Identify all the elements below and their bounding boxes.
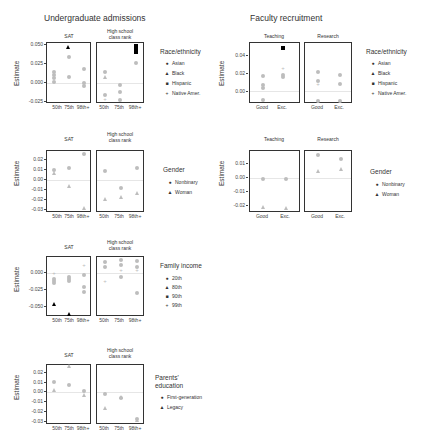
panel-income-sat: + + — [46, 256, 91, 316]
point — [82, 206, 86, 210]
legend-title-race-ug: Race/ethnicity — [160, 48, 201, 56]
point — [118, 90, 122, 94]
point: + — [281, 66, 285, 70]
legend-item: ■Hispanic — [162, 80, 191, 86]
y-tick: 0.000 — [21, 269, 43, 275]
legend-label: Native Amer. — [172, 90, 200, 96]
point — [67, 364, 71, 368]
legend-label: 80th — [172, 284, 182, 290]
y-tick: -0.025 — [21, 286, 43, 292]
legend-item: ▲Woman — [165, 189, 192, 195]
strip-hs-line2: class rank — [96, 35, 144, 41]
point — [261, 205, 265, 209]
triangle-icon: ▲ — [372, 191, 382, 197]
point — [118, 83, 122, 87]
zero-line — [250, 91, 299, 92]
y-tick: -0.025 — [21, 98, 43, 104]
point — [103, 70, 107, 74]
y-tick: 0.02 — [21, 369, 43, 375]
point — [284, 177, 288, 181]
y-tick: 0.00 — [223, 174, 245, 180]
x-tick: Exc. — [275, 213, 295, 219]
point — [338, 82, 342, 86]
circle-icon: ● — [162, 275, 172, 281]
x-tick: Good — [252, 104, 272, 110]
point — [82, 273, 86, 277]
legend-label: Legacy — [167, 404, 183, 410]
x-tick: 98th+ — [125, 425, 145, 431]
legend-title-gender-fac: Gender — [370, 168, 392, 176]
legend-item: +99th — [162, 302, 182, 308]
triangle-icon: ▲ — [368, 70, 378, 76]
point: + — [316, 82, 320, 86]
legend-label: Woman — [382, 191, 399, 197]
circle-icon: ● — [372, 181, 382, 187]
legend-label: Black — [172, 70, 184, 76]
point — [82, 84, 86, 88]
x-tick: 98th+ — [125, 317, 145, 323]
point — [103, 260, 107, 264]
strip-hs-line2: class rank — [96, 354, 144, 360]
strip-hs: High school class rank — [96, 29, 144, 40]
y-tick: 0.01 — [223, 160, 245, 166]
y-tick: -0.02 — [21, 408, 43, 414]
legend-title-gender-ug: Gender — [163, 166, 185, 174]
point — [103, 392, 107, 396]
point — [135, 166, 139, 170]
zero-line — [305, 178, 351, 179]
legend-item: +Native Amer. — [368, 90, 406, 96]
panel-parents-hs — [96, 364, 144, 424]
point — [261, 177, 265, 181]
y-tick: 0.050 — [21, 41, 43, 47]
legend-item: ▲80th — [162, 284, 182, 290]
x-tick: Exc. — [330, 213, 350, 219]
point-highlight — [281, 46, 285, 50]
x-tick: 98th+ — [73, 317, 93, 323]
circle-icon: ● — [165, 179, 175, 185]
legend-item: +Native Amer. — [162, 90, 200, 96]
point: + — [135, 268, 139, 272]
square-icon: ■ — [162, 293, 172, 299]
point — [82, 393, 86, 397]
y-tick: 0.00 — [21, 176, 43, 182]
circle-icon: ● — [368, 60, 378, 66]
y-tick: 0.02 — [21, 156, 43, 162]
circle-icon: ● — [162, 60, 172, 66]
point — [67, 166, 71, 170]
x-tick: Good — [307, 213, 327, 219]
point — [103, 265, 107, 269]
legend-label: 90th — [172, 293, 182, 299]
triangle-icon: ▲ — [157, 404, 167, 410]
strip-hs-line2: class rank — [96, 246, 144, 252]
legend-label: 99th — [172, 302, 182, 308]
y-tick: 0.02 — [223, 70, 245, 76]
point-highlight — [52, 302, 56, 306]
x-tick: Exc. — [329, 104, 349, 110]
zero-line — [305, 91, 351, 92]
legend-item: ●Asian — [162, 60, 185, 66]
point — [119, 395, 123, 399]
strip-sat: SAT — [47, 353, 91, 359]
point — [82, 67, 86, 71]
legend-item: ▲Black — [162, 70, 184, 76]
strip-sat: SAT — [47, 34, 91, 40]
point: + — [103, 97, 107, 101]
panel-gender-hs — [96, 150, 144, 212]
point — [281, 75, 285, 79]
point — [103, 406, 107, 410]
y-tick: -0.03 — [21, 418, 43, 424]
strip-hs: High school class rank — [96, 132, 144, 143]
point — [67, 383, 71, 387]
legend-item: ●20th — [162, 275, 182, 281]
point-highlight — [134, 50, 138, 54]
y-tick: -0.050 — [21, 303, 43, 309]
point — [316, 70, 320, 74]
panel-gender-teaching — [249, 150, 300, 212]
legend-item: ■Hispanic — [368, 80, 397, 86]
legend-item: ▲Black — [368, 70, 390, 76]
legend-label: Hispanic — [172, 80, 191, 86]
point-highlight — [66, 45, 70, 49]
point — [261, 74, 265, 78]
point — [135, 191, 139, 195]
zero-line — [47, 180, 90, 181]
